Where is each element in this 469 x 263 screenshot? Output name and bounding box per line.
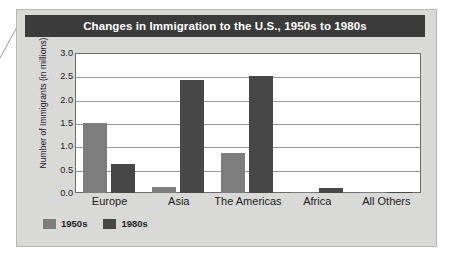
legend-item-1950s: 1950s: [43, 218, 87, 229]
y-axis-tick-label: 2.5: [45, 71, 73, 81]
gridline: [76, 101, 420, 102]
legend-label-1980s: 1980s: [121, 218, 147, 229]
y-axis-tick-label: 0.5: [45, 165, 73, 175]
x-axis-label-asia: Asia: [144, 195, 213, 207]
y-axis-tick-labels: 0.00.51.01.52.02.53.0: [45, 53, 73, 193]
x-axis-label-africa: Africa: [283, 195, 352, 207]
y-axis-tick-label: 2.0: [45, 95, 73, 105]
gridline: [76, 124, 420, 125]
gridline: [76, 147, 420, 148]
y-axis-tick-label: 1.0: [45, 141, 73, 151]
x-axis-label-europe: Europe: [75, 195, 144, 207]
x-axis-label-all-others: All Others: [352, 195, 421, 207]
plot-area: [75, 53, 421, 193]
chart-figure-panel: Changes in Immigration to the U.S., 1950…: [16, 9, 437, 247]
legend-label-1950s: 1950s: [61, 218, 87, 229]
y-axis-tick-label: 3.0: [45, 48, 73, 58]
gridline: [76, 77, 420, 78]
x-axis-label-the-americas: The Americas: [213, 195, 282, 207]
legend-swatch-1950s: [43, 219, 56, 229]
chart-title: Changes in Immigration to the U.S., 1950…: [83, 20, 367, 32]
legend-item-1980s: 1980s: [103, 218, 147, 229]
gridlines: [76, 54, 420, 192]
chart-title-bar: Changes in Immigration to the U.S., 1950…: [25, 15, 425, 37]
y-axis-tick-label: 0.0: [45, 188, 73, 198]
y-axis-tick-label: 1.5: [45, 118, 73, 128]
gridline: [76, 171, 420, 172]
chart-legend: 1950s1980s: [43, 218, 148, 229]
x-axis-category-labels: EuropeAsiaThe AmericasAfricaAll Others: [75, 195, 421, 211]
legend-swatch-1980s: [103, 219, 116, 229]
